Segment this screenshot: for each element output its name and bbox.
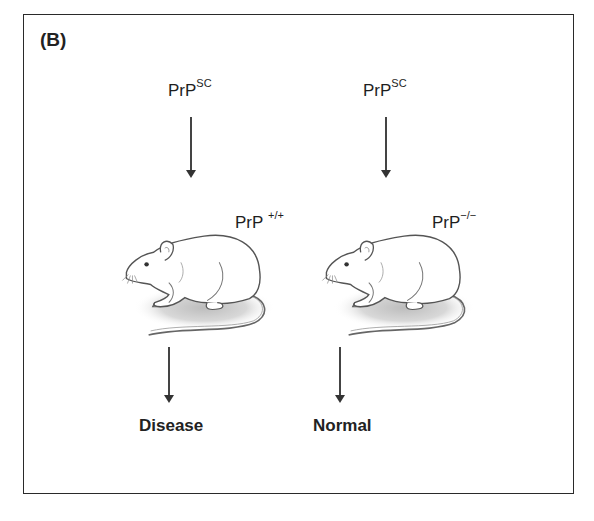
left-outcome-arrow-icon [168,347,170,397]
right-input-label: PrPSC [363,79,407,101]
right-down-arrow-icon [385,117,387,172]
right-genotype-label: PrP−/− [432,211,476,233]
right-outcome-label: Normal [313,416,372,436]
right-outcome-arrow-icon [339,347,341,397]
figure-frame [23,14,574,494]
left-down-arrow-icon [190,117,192,172]
wildtype-mouse-icon [108,222,280,338]
left-genotype-label: PrP +/+ [235,211,284,233]
left-input-label: PrPSC [168,79,212,101]
panel-label: (B) [40,29,66,51]
left-outcome-label: Disease [139,416,203,436]
knockout-mouse-icon [308,222,480,338]
